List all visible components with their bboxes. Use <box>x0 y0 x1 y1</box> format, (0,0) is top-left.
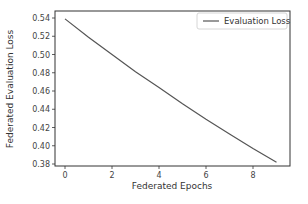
x-tick-label: 4 <box>156 171 161 180</box>
x-tick-label: 0 <box>62 171 67 180</box>
x-axis-label: Federated Epochs <box>132 181 213 191</box>
legend: Evaluation Loss <box>197 13 291 29</box>
x-axis-ticks: 02468 <box>62 166 255 180</box>
y-tick-label: 0.44 <box>32 105 50 114</box>
y-tick-label: 0.40 <box>32 142 50 151</box>
y-axis-ticks: 0.380.400.420.440.460.480.500.520.54 <box>32 14 55 169</box>
y-tick-label: 0.50 <box>32 51 50 60</box>
y-tick-label: 0.38 <box>32 160 50 169</box>
y-tick-label: 0.54 <box>32 14 50 23</box>
x-tick-label: 2 <box>109 171 114 180</box>
y-tick-label: 0.46 <box>32 87 50 96</box>
x-tick-label: 6 <box>203 171 208 180</box>
line-chart: 0.380.400.420.440.460.480.500.520.54 024… <box>0 0 308 204</box>
legend-label: Evaluation Loss <box>224 16 291 26</box>
x-tick-label: 8 <box>250 171 255 180</box>
evaluation-loss-line <box>65 19 277 162</box>
y-axis-label: Federated Evaluation Loss <box>5 29 15 148</box>
y-tick-label: 0.48 <box>32 69 50 78</box>
y-tick-label: 0.42 <box>32 124 50 133</box>
plot-frame <box>55 11 290 166</box>
y-tick-label: 0.52 <box>32 32 50 41</box>
